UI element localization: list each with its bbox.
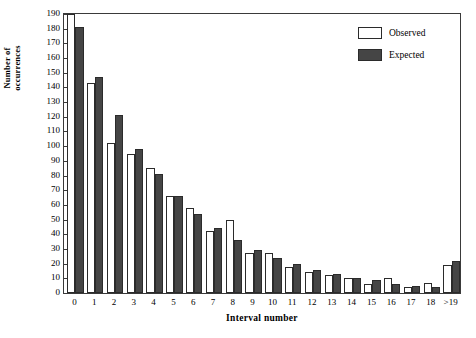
legend-label-expected: Expected: [389, 49, 424, 61]
bar-observed: [443, 265, 451, 293]
y-axis-tick-label: 30: [51, 243, 60, 254]
x-axis-tick-label: 9: [250, 296, 255, 308]
legend-swatch-expected-icon: [358, 49, 382, 61]
x-axis-ticks: 0123456789101112131415161718>19: [63, 296, 461, 312]
x-axis-tick-label: 10: [268, 296, 277, 308]
x-axis-tick-label: 13: [327, 296, 336, 308]
bar-expected: [135, 149, 143, 293]
bar-observed: [384, 278, 392, 293]
bar-observed: [107, 143, 115, 293]
legend-item-observed: Observed: [358, 26, 468, 40]
bar-observed: [305, 272, 313, 293]
bar-expected: [95, 77, 103, 293]
y-axis-tick-label: 80: [51, 170, 60, 181]
bar-group: [127, 14, 143, 293]
y-axis-tick-label: 60: [51, 199, 60, 210]
x-axis-tick-label: 3: [132, 296, 137, 308]
x-axis-tick-label: 7: [211, 296, 216, 308]
bar-expected: [194, 214, 202, 293]
bar-observed: [127, 154, 135, 294]
x-axis-tick-label: 0: [72, 296, 77, 308]
y-axis-tick-label: 140: [47, 81, 61, 92]
x-axis-tick-label: 4: [151, 296, 156, 308]
bar-expected: [452, 261, 460, 293]
bar-group: [186, 14, 202, 293]
bar-observed: [166, 196, 174, 293]
legend: Observed Expected: [358, 26, 468, 70]
y-axis-tick-label: 120: [47, 111, 61, 122]
bar-expected: [155, 174, 163, 293]
bar-observed: [325, 275, 333, 293]
bar-observed: [146, 168, 154, 293]
x-axis-tick-label: 11: [288, 296, 297, 308]
y-axis-tick-label: 190: [47, 8, 61, 19]
legend-swatch-observed-icon: [358, 27, 382, 39]
bar-chart-figure: Number of occurrences 010203040506070809…: [0, 0, 476, 338]
y-axis-title-line1: Number of: [2, 8, 12, 128]
bar-expected: [392, 284, 400, 293]
bar-group: [285, 14, 301, 293]
y-axis-tick-label: 110: [47, 125, 60, 136]
y-axis-tick-label: 70: [51, 184, 60, 195]
bar-expected: [273, 258, 281, 293]
x-axis-tick-label: 16: [387, 296, 396, 308]
bar-expected: [372, 280, 380, 293]
x-axis-tick-label: 15: [367, 296, 376, 308]
x-axis-tick-label: 8: [231, 296, 236, 308]
bar-group: [166, 14, 182, 293]
bar-group: [325, 14, 341, 293]
bar-expected: [293, 264, 301, 293]
y-axis-tick-label: 170: [47, 37, 61, 48]
y-axis-tick-label: 0: [56, 287, 61, 298]
legend-item-expected: Expected: [358, 48, 468, 62]
legend-label-observed: Observed: [389, 27, 425, 39]
bar-expected: [353, 278, 361, 293]
y-axis-tick-label: 160: [47, 52, 61, 63]
y-axis-tick-label: 20: [51, 258, 60, 269]
x-axis-tick-label: 6: [191, 296, 196, 308]
x-axis-tick-label: 17: [407, 296, 416, 308]
bar-expected: [333, 274, 341, 293]
y-axis-tick-label: 180: [47, 23, 61, 34]
bar-observed: [245, 253, 253, 293]
bar-expected: [115, 115, 123, 293]
bar-group: [265, 14, 281, 293]
x-axis-tick-label: 2: [112, 296, 117, 308]
x-axis-tick-label: 18: [426, 296, 435, 308]
bar-expected: [174, 196, 182, 293]
x-axis-tick-label: >19: [444, 296, 458, 308]
x-axis-title: Interval number: [63, 313, 461, 323]
y-axis-tick-label: 10: [51, 272, 60, 283]
bar-group: [107, 14, 123, 293]
bar-group: [67, 14, 83, 293]
x-axis-tick-label: 14: [347, 296, 356, 308]
bar-observed: [186, 208, 194, 293]
bar-observed: [404, 287, 412, 293]
bar-expected: [254, 250, 262, 293]
bar-expected: [75, 27, 83, 293]
bar-observed: [344, 278, 352, 293]
bar-observed: [424, 283, 432, 293]
x-axis-tick-label: 5: [171, 296, 176, 308]
bar-observed: [206, 231, 214, 293]
bar-observed: [364, 284, 372, 293]
y-axis-tick-label: 50: [51, 214, 60, 225]
x-axis-tick-label: 1: [92, 296, 97, 308]
bar-expected: [214, 228, 222, 293]
bar-observed: [285, 267, 293, 293]
y-axis-tick-label: 150: [47, 67, 61, 78]
bar-group: [206, 14, 222, 293]
bar-expected: [313, 270, 321, 293]
bar-group: [226, 14, 242, 293]
y-axis-title-line2: occurrences: [12, 8, 22, 128]
bar-observed: [226, 220, 234, 293]
bar-observed: [265, 253, 273, 293]
x-axis-tick-label: 12: [308, 296, 317, 308]
y-axis-tick-label: 40: [51, 228, 60, 239]
bar-expected: [412, 286, 420, 293]
bar-observed: [67, 14, 75, 293]
bar-group: [146, 14, 162, 293]
bar-expected: [432, 287, 440, 293]
bar-group: [87, 14, 103, 293]
bar-group: [305, 14, 321, 293]
